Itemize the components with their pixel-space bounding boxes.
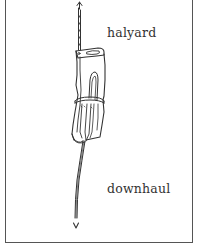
sail-bundle xyxy=(72,48,105,143)
halyard-rope xyxy=(79,8,81,50)
arrow-up-icon xyxy=(77,2,82,9)
downhaul-rope xyxy=(75,141,85,218)
halyard-downhaul-illustration xyxy=(0,0,199,250)
downhaul-label: downhaul xyxy=(107,181,170,196)
arrow-down-icon xyxy=(74,223,79,228)
halyard-label: halyard xyxy=(107,25,156,40)
lashing-rope xyxy=(75,97,104,108)
